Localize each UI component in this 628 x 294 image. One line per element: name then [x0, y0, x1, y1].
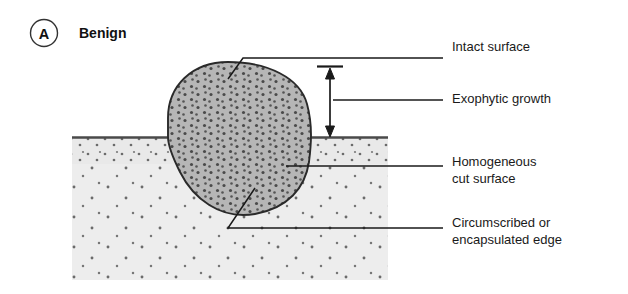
panel-title: Benign [79, 25, 126, 41]
diagram-canvas: A Benign Intact surface Exophytic growth… [0, 0, 628, 294]
arrow-head-down [326, 126, 335, 137]
annotation-label-homogeneous-cut-surface: Homogeneous [452, 154, 537, 169]
annotation-label-circumscribed-edge: Circumscribed or [452, 215, 551, 230]
panel-letter-badge: A [31, 20, 58, 47]
annotation-label-homogeneous-cut-surface-line2: cut surface [452, 171, 516, 186]
exophytic-height-arrow [317, 67, 343, 138]
annotation-label-circumscribed-edge-line2: encapsulated edge [452, 232, 562, 247]
arrow-head-up [326, 68, 335, 79]
panel-letter-text: A [39, 26, 50, 42]
annotation-label-exophytic-growth: Exophytic growth [452, 91, 551, 106]
figure-panel-benign-tumor: A Benign Intact surface Exophytic growth… [0, 0, 628, 294]
annotation-label-intact-surface: Intact surface [452, 39, 530, 54]
